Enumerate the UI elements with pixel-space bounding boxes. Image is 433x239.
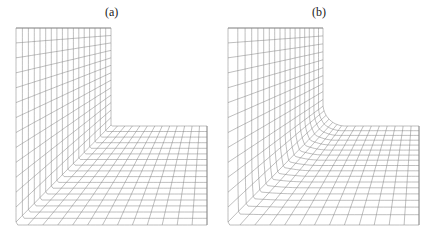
mesh-diagrams bbox=[0, 0, 433, 239]
